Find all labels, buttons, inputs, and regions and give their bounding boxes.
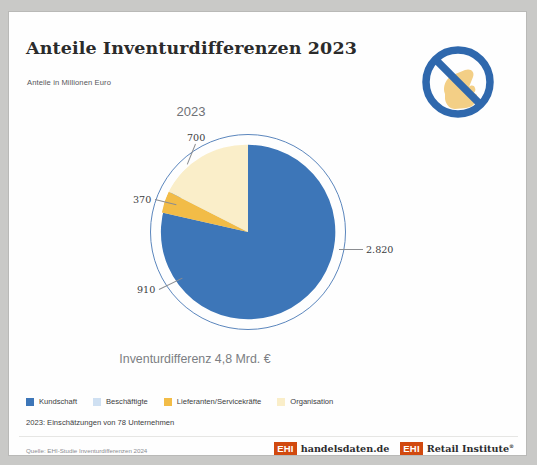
source-note: Quelle: EHI-Studie Inventurdifferenzen 2… bbox=[26, 447, 147, 454]
chart-legend: Kundschaft Beschäftigte Lieferanten/Serv… bbox=[26, 397, 349, 406]
value-label-700: 700 bbox=[187, 132, 205, 143]
subtitle: Anteile in Millionen Euro bbox=[27, 78, 111, 87]
logo-handelsdaten[interactable]: EHI handelsdaten.de bbox=[274, 442, 389, 456]
legend-item-beschaeftigte: Beschäftigte bbox=[93, 397, 148, 406]
infographic-card: Anteile Inventurdifferenzen 2023 Anteile… bbox=[8, 11, 527, 456]
footer-logos: EHI handelsdaten.de EHI Retail Institute… bbox=[263, 442, 514, 456]
legend-label: Lieferanten/Servicekräfte bbox=[177, 397, 261, 406]
logo-name: Retail Institute® bbox=[427, 443, 514, 454]
pie-chart bbox=[150, 134, 346, 330]
no-theft-hand-icon bbox=[415, 39, 501, 125]
legend-item-organisation: Organisation bbox=[277, 397, 333, 406]
legend-item-lieferanten: Lieferanten/Servicekräfte bbox=[164, 397, 261, 406]
legend-swatch bbox=[93, 398, 101, 406]
leader-line-2820 bbox=[339, 249, 363, 250]
legend-label: Organisation bbox=[290, 397, 333, 406]
page-title: Anteile Inventurdifferenzen 2023 bbox=[26, 38, 357, 58]
value-label-910: 910 bbox=[137, 284, 155, 295]
pie-slices bbox=[159, 143, 337, 321]
ehi-mark: EHI bbox=[400, 442, 422, 456]
logo-name: handelsdaten.de bbox=[301, 443, 390, 454]
legend-swatch bbox=[164, 398, 172, 406]
legend-swatch bbox=[26, 398, 34, 406]
legend-swatch bbox=[277, 398, 285, 406]
registered-mark: ® bbox=[509, 443, 514, 449]
logo-retail-institute[interactable]: EHI Retail Institute® bbox=[400, 442, 514, 456]
ehi-mark: EHI bbox=[274, 442, 296, 456]
value-label-2820: 2.820 bbox=[366, 244, 393, 255]
legend-label: Kundschaft bbox=[39, 397, 77, 406]
total-note: Inventurdifferenz 4,8 Mrd. € bbox=[9, 352, 381, 366]
legend-label: Beschäftigte bbox=[106, 397, 148, 406]
chart-title: 2023 bbox=[9, 104, 373, 119]
legend-item-kundschaft: Kundschaft bbox=[26, 397, 77, 406]
footer-divider bbox=[19, 436, 518, 437]
value-label-370: 370 bbox=[133, 194, 151, 205]
chart-footnote: 2023: Einschätzungen von 78 Unternehmen bbox=[26, 418, 174, 427]
